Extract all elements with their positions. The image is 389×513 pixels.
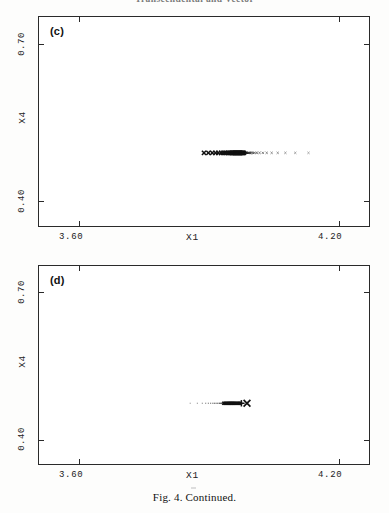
x-axis-min-label-c: 3.60 bbox=[59, 232, 83, 242]
y-axis-min-label-d: 0.40 bbox=[17, 422, 27, 456]
figure-panel-d: (d) bbox=[38, 265, 370, 465]
y-tick-max-c bbox=[39, 44, 44, 45]
x-axis-title-c: X1 bbox=[186, 232, 199, 243]
y-axis-max-label-d: 0.70 bbox=[17, 275, 27, 309]
x-axis-max-label-d: 4.20 bbox=[318, 470, 342, 480]
x-tick-max-c bbox=[339, 221, 340, 226]
x-tick-min-top-c bbox=[79, 17, 80, 22]
y-tick-min-right-c bbox=[364, 201, 369, 202]
y-tick-max-right-c bbox=[364, 44, 369, 45]
y-tick-min-d bbox=[39, 440, 44, 441]
y-axis-min-label-c: 0.40 bbox=[17, 184, 27, 218]
x-axis-title-d: X1 bbox=[186, 470, 199, 481]
scatter-data-c bbox=[39, 17, 369, 226]
y-axis-title-c: X4 bbox=[17, 104, 28, 132]
y-tick-min-c bbox=[39, 201, 44, 202]
panel-label-d: (d) bbox=[50, 274, 65, 286]
x-tick-max-top-d bbox=[339, 266, 340, 271]
y-axis-title-d: X4 bbox=[17, 348, 28, 376]
y-tick-min-right-d bbox=[364, 440, 369, 441]
running-header: Transcendental and Vector bbox=[0, 0, 389, 3]
x-tick-min-c bbox=[79, 221, 80, 226]
x-tick-max-top-c bbox=[339, 17, 340, 22]
y-axis-max-label-c: 0.70 bbox=[17, 27, 27, 61]
panel-label-c: (c) bbox=[50, 25, 64, 37]
x-tick-min-top-d bbox=[79, 266, 80, 271]
x-axis-min-label-d: 3.60 bbox=[59, 470, 83, 480]
x-axis-max-label-c: 4.20 bbox=[318, 232, 342, 242]
figure-caption: Fig. 4. Continued. bbox=[0, 491, 389, 503]
figure-panel-c: (c) bbox=[38, 16, 370, 227]
x-tick-min-d bbox=[79, 459, 80, 464]
y-tick-max-d bbox=[39, 292, 44, 293]
y-tick-max-right-d bbox=[364, 292, 369, 293]
scan-speckle bbox=[191, 487, 196, 489]
scatter-data-d bbox=[39, 266, 369, 464]
scanned-page: Transcendental and Vector (c) 0.70 X4 0.… bbox=[0, 0, 389, 513]
x-tick-max-d bbox=[339, 459, 340, 464]
